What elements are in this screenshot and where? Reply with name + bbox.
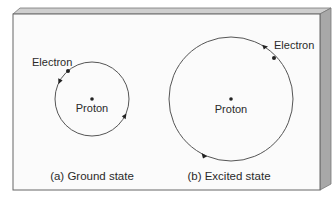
proton-dot bbox=[90, 97, 94, 101]
panel-top-edge bbox=[13, 8, 331, 14]
ground-state-caption: (a) Ground state bbox=[50, 170, 134, 182]
electron-dot bbox=[66, 69, 70, 73]
atom-diagram: Proton Electron (a) Ground state Proton … bbox=[0, 0, 336, 203]
electron-label: Electron bbox=[274, 39, 314, 51]
proton-dot bbox=[229, 97, 233, 101]
proton-label: Proton bbox=[76, 102, 108, 114]
excited-state-caption: (b) Excited state bbox=[187, 170, 270, 182]
panel-side-edge bbox=[320, 8, 331, 190]
proton-label: Proton bbox=[215, 103, 247, 115]
electron-label: Electron bbox=[32, 56, 72, 68]
electron-dot bbox=[272, 56, 276, 60]
